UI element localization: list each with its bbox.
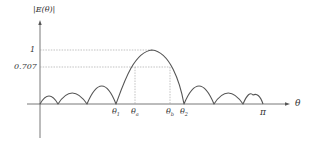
x-axis-label: θ: [295, 99, 300, 108]
theta-a-label: θa: [131, 108, 139, 117]
theta-b-label: θb: [166, 108, 174, 117]
subscript-b: b: [171, 111, 174, 117]
pattern-plot: [0, 0, 310, 142]
subscript-1: 1: [117, 111, 120, 117]
pattern-curve: [40, 50, 263, 104]
theta-2-label: θ2: [180, 108, 188, 117]
subscript-a: a: [136, 111, 139, 117]
level-1-label: 1: [30, 46, 35, 54]
subscript-2: 2: [185, 111, 188, 117]
pi-label: π: [260, 108, 266, 117]
level-0707-label: 0.707: [14, 63, 37, 71]
radiation-pattern-diagram: |E(θ)| 1 0.707 θ θ1 θa θb θ2 π: [0, 0, 310, 142]
y-axis-arrow-icon: [38, 20, 41, 25]
y-axis-label: |E(θ)|: [33, 6, 55, 14]
theta-1-label: θ1: [112, 108, 120, 117]
x-axis-arrow-icon: [285, 102, 290, 105]
